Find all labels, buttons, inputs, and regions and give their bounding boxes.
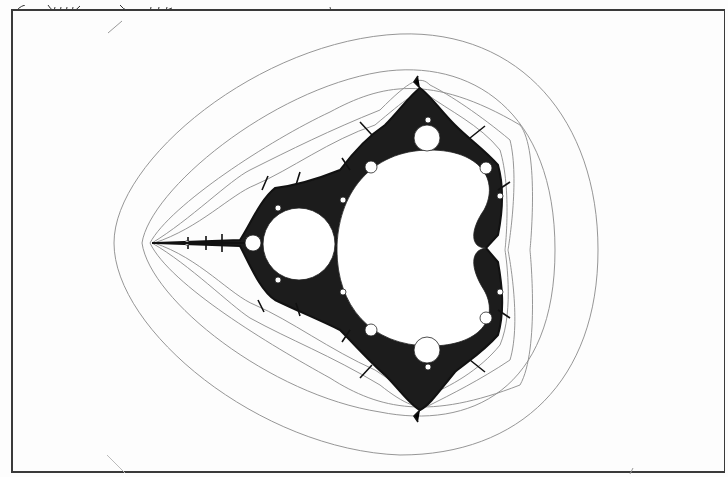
scan-mark [107, 455, 125, 473]
period-2-bulb [263, 208, 335, 280]
scanned-page [0, 0, 728, 477]
scan-mark [630, 468, 633, 474]
scan-mark [108, 21, 122, 33]
mandelbrot-figure [0, 0, 728, 477]
period-3-bulb-bottom [414, 337, 440, 363]
period-3-bulb-top [414, 125, 440, 151]
period-4-bulb [245, 235, 261, 251]
